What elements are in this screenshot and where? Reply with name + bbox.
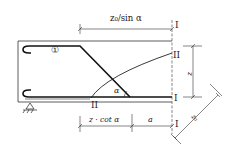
- label-right-dimension: z: [186, 71, 194, 76]
- support-icon: [23, 103, 37, 113]
- label-section-I-bottom: I: [175, 119, 179, 129]
- label-section-I-mid: I: [174, 93, 178, 103]
- bottom-bar: [23, 90, 172, 97]
- label-bottom-dimension-left: z · cot α: [88, 115, 119, 124]
- label-diagonal-dimension: z₀: [189, 112, 200, 123]
- label-bar-marker: ①: [51, 45, 59, 55]
- label-section-II-right: II: [173, 50, 181, 60]
- beam-diagram: z₀/sin α I II I II I ① α z · cot α a z z…: [0, 0, 230, 155]
- top-dimension: [78, 24, 174, 34]
- label-section-II-bottom: II: [91, 100, 99, 110]
- section-curve-II: [91, 53, 172, 98]
- label-top-dimension: z₀/sin α: [110, 13, 142, 23]
- label-bottom-dimension-right: a: [148, 115, 153, 124]
- label-angle: α: [114, 86, 120, 95]
- label-section-I-top: I: [175, 20, 179, 30]
